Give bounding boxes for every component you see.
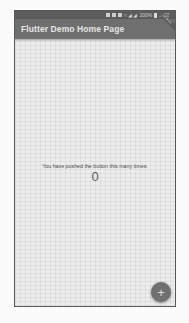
- signal-icon: ≈ ◢ ◢: [124, 11, 138, 19]
- counter-section: You have pushed the button this many tim…: [15, 163, 175, 184]
- status-bar: ≈ ◢ ◢ 100% 3:42: [15, 11, 175, 19]
- counter-value: 0: [15, 170, 175, 184]
- page-title: Flutter Demo Home Page: [21, 24, 124, 34]
- notification-icon: [106, 13, 110, 17]
- phone-screen: ≈ ◢ ◢ 100% 3:42 Flutter Demo Home Page D…: [14, 10, 176, 307]
- app-bar: Flutter Demo Home Page: [15, 19, 175, 39]
- battery-percent: 100%: [139, 11, 152, 19]
- increment-button[interactable]: +: [151, 282, 171, 302]
- notification-icon: [112, 13, 116, 17]
- notification-icon: [118, 13, 122, 17]
- add-icon: +: [157, 286, 165, 299]
